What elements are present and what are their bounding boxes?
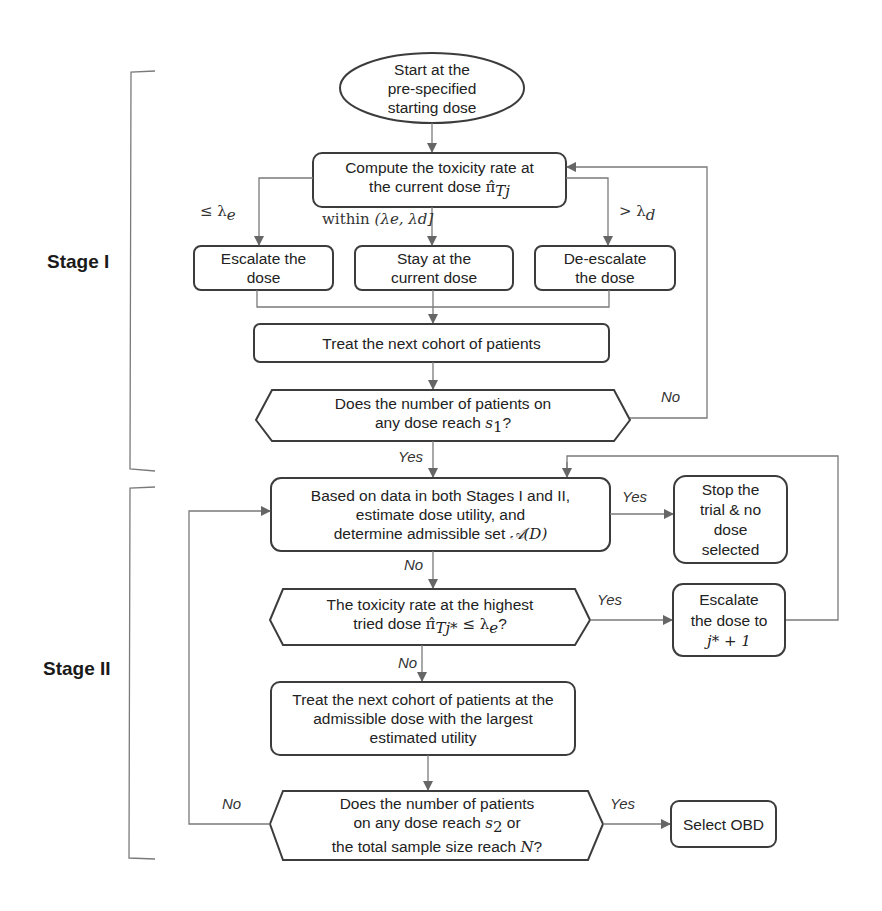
decision2-line2: tried dose π̂Tj* ≤ λe? <box>353 614 507 638</box>
no-loop-stage2 <box>189 511 270 824</box>
compute-line2: the current dose π̂Tj <box>369 177 510 201</box>
stay-line: current dose <box>391 268 477 287</box>
select-obd-label: Select OBD <box>683 815 764 834</box>
decision3-line2-text: on any dose reach <box>353 814 485 831</box>
estimate-line2: estimate dose utility, and <box>356 505 525 524</box>
deescalate-branch <box>566 178 608 245</box>
estimate-line3-text: determine admissible set <box>334 525 510 542</box>
estimate-node: Based on data in both Stages I and II, e… <box>271 478 610 551</box>
escalate-branch <box>259 178 313 245</box>
decision1-node: Does the number of patients on any dose … <box>262 390 624 441</box>
question-mark: ? <box>498 615 507 632</box>
compute-line1: Compute the toxicity rate at <box>345 158 534 177</box>
treat2-line: estimated utility <box>370 728 477 747</box>
le-lambda-e-label: ≤ λe <box>200 202 236 224</box>
lambda-sub: e <box>489 620 498 638</box>
admissible-set-symbol: 𝒜(D) <box>510 525 548 543</box>
decision2-line2-text: tried dose <box>353 615 425 632</box>
decision1-line1: Does the number of patients on <box>335 394 551 413</box>
yes-label-select: Yes <box>610 795 635 812</box>
yes-label-stop: Yes <box>622 488 647 505</box>
select-obd-node: Select OBD <box>671 801 776 847</box>
no-label-decision2: No <box>398 654 417 671</box>
stop-line: dose <box>714 520 748 540</box>
question-mark: ? <box>534 838 543 855</box>
treat2-node: Treat the next cohort of patients at the… <box>271 682 575 755</box>
start-node: Start at the pre-specified starting dose <box>340 56 524 120</box>
decision2-node: The toxicity rate at the highest tried d… <box>275 589 585 645</box>
deescalate-line: the dose <box>575 268 634 287</box>
within-text: within <box>322 210 375 228</box>
treat1-node: Treat the next cohort of patients <box>254 324 609 362</box>
treat2-line: admissible dose with the largest <box>313 709 533 728</box>
estimate-line1: Based on data in both Stages I and II, <box>311 486 570 505</box>
lambda-sub: d <box>646 206 656 224</box>
stage2-label: Stage II <box>43 658 111 680</box>
start-line: Start at the <box>394 60 470 79</box>
within-interval: (λe, λd] <box>375 210 434 228</box>
escalate-line: dose <box>247 268 281 287</box>
treat1-line: Treat the next cohort of patients <box>322 334 540 353</box>
no-label-stage1: No <box>661 388 680 405</box>
decision1-line2-text: any dose reach <box>375 414 485 431</box>
le-lambda-text: ≤ λ <box>458 615 490 633</box>
treat2-line: Treat the next cohort of patients at the <box>292 690 553 709</box>
stay-node: Stay at the current dose <box>355 246 513 290</box>
decision3-line3-text: the total sample size reach <box>332 838 521 855</box>
escalate2-line1: Escalate <box>699 589 758 610</box>
decision1-line2: any dose reach s1? <box>375 413 511 437</box>
within-label: within (λe, λd] <box>322 210 433 228</box>
compute-line2-text: the current dose <box>369 178 485 195</box>
stop-line: trial & no <box>700 500 761 520</box>
decision3-line2: on any dose reach s2 or <box>353 813 520 837</box>
pi-subscript: Tj* <box>435 620 457 638</box>
escalate-line: Escalate the <box>221 249 306 268</box>
decision2-line1: The toxicity rate at the highest <box>327 595 534 614</box>
stage2-bracket <box>129 487 155 859</box>
start-line: starting dose <box>388 98 477 117</box>
s-subscript: 2 <box>493 818 503 836</box>
compute-node: Compute the toxicity rate at the current… <box>313 153 566 207</box>
escalate-node: Escalate the dose <box>194 246 333 290</box>
no-label-decision3: No <box>222 795 241 812</box>
stop-line: selected <box>702 540 760 560</box>
decision3-line1: Does the number of patients <box>340 794 535 813</box>
pi-hat-symbol: π̂ <box>485 178 495 196</box>
s-symbol: s <box>485 814 493 832</box>
lambda-sub: e <box>227 206 236 224</box>
le-lambda-text: ≤ λ <box>200 202 227 220</box>
gt-lambda-d-label: > λd <box>619 202 655 224</box>
estimate-line3: determine admissible set 𝒜(D) <box>334 524 547 544</box>
or-text: or <box>503 814 521 831</box>
gt-lambda-text: > λ <box>619 202 646 220</box>
yes-label-escalate2: Yes <box>597 591 622 608</box>
stay-line: Stay at the <box>397 249 471 268</box>
escalate2-line2: the dose to <box>691 610 768 631</box>
decision3-line3: the total sample size reach N? <box>332 837 542 857</box>
pi-hat-symbol: π̂ <box>426 615 436 633</box>
stop-node: Stop the trial & no dose selected <box>674 476 787 563</box>
s-symbol: s <box>485 414 493 432</box>
escalate2-line3: j* + 1 <box>707 631 751 652</box>
pi-subscript: Tj <box>495 183 510 201</box>
deescalate-line: De-escalate <box>564 249 647 268</box>
deescalate-node: De-escalate the dose <box>535 246 675 290</box>
yes-label-stage1: Yes <box>398 448 423 465</box>
no-label-estimate: No <box>404 556 423 573</box>
flowchart-connectors <box>0 0 882 911</box>
stage1-bracket <box>130 71 155 471</box>
start-line: pre-specified <box>388 79 477 98</box>
question-mark: ? <box>502 414 511 431</box>
stage1-label: Stage I <box>47 251 109 273</box>
n-symbol: N <box>520 838 533 856</box>
stop-line: Stop the <box>702 480 760 500</box>
escalate2-node: Escalate the dose to j* + 1 <box>673 584 785 656</box>
decision3-node: Does the number of patients on any dose … <box>278 791 596 860</box>
